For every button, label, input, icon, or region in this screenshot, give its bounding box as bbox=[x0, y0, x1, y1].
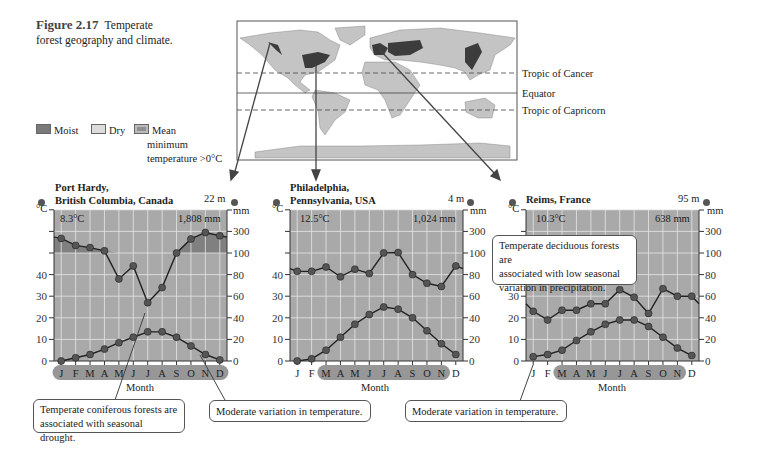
deciduous-callout-line2: associated with low seasonal bbox=[499, 267, 630, 281]
coniferous-callout: Temperate coniferous forests are associa… bbox=[33, 399, 185, 433]
deciduous-callout: Temperate deciduous forests are associat… bbox=[492, 235, 637, 285]
coniferous-callout-line1: Temperate coniferous forests are bbox=[40, 403, 178, 417]
deciduous-callout-line1: Temperate deciduous forests are bbox=[499, 239, 630, 267]
coniferous-callout-line2: associated with seasonal drought. bbox=[40, 417, 178, 445]
moderate-callout-1-text: Moderate variation in temperature. bbox=[216, 405, 364, 419]
moderate-callout-2-text: Moderate variation in temperature. bbox=[412, 405, 560, 419]
moderate-variation-callout-1: Moderate variation in temperature. bbox=[209, 400, 371, 422]
moderate-variation-callout-2: Moderate variation in temperature. bbox=[405, 400, 567, 422]
deciduous-callout-line3: variation in precipitation. bbox=[499, 281, 630, 295]
callout-pointers bbox=[0, 0, 759, 452]
